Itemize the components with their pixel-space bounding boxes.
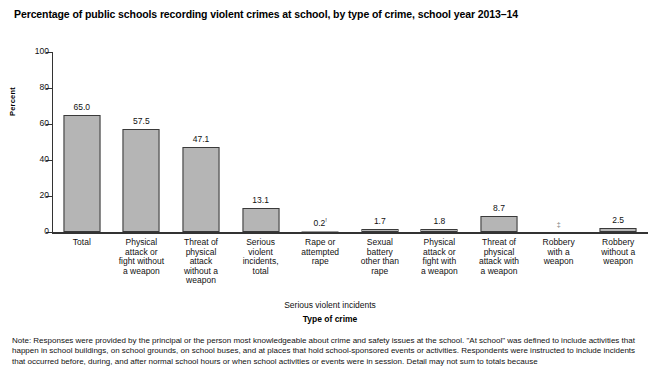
x-axis-category-label: Threat ofphysicalattack witha weapon xyxy=(469,238,529,276)
bar[interactable] xyxy=(182,147,219,232)
bar[interactable] xyxy=(480,216,517,232)
x-axis-category-label: Physicalattack orfight withouta weapon xyxy=(112,238,172,276)
category-label-line: rape xyxy=(350,267,410,277)
bar-slot: 2.5 xyxy=(588,52,648,232)
x-axis-category-label: Threat ofphysicalattackwithout aweapon xyxy=(171,238,231,286)
y-axis-label: Percent xyxy=(8,87,17,116)
bar[interactable] xyxy=(302,231,339,232)
note-line-2: happen in school buildings, on school gr… xyxy=(12,346,652,356)
x-axis-category-label: Total xyxy=(52,238,112,248)
category-label-line: weapon xyxy=(588,257,648,267)
bar-value-label: 1.7 xyxy=(374,216,386,226)
x-axis-category-label: Seriousviolentincidents,total xyxy=(231,238,291,276)
y-axis-tick-label: 80 xyxy=(40,82,49,92)
chart-title: Percentage of public schools recording v… xyxy=(14,8,654,20)
bar-slot: 57.5 xyxy=(112,52,172,232)
bar-value-label: 65.0 xyxy=(74,102,91,112)
category-label-line: weapon xyxy=(529,257,589,267)
bar-value-label: 13.1 xyxy=(252,195,269,205)
bar[interactable] xyxy=(242,208,279,232)
y-axis-tick-label: 60 xyxy=(40,118,49,128)
x-axis-label: Type of crime xyxy=(0,314,660,324)
bar[interactable] xyxy=(421,229,458,232)
bar-value-label: 57.5 xyxy=(133,116,150,126)
bar-suppressed-symbol: ‡ xyxy=(557,221,561,228)
note-line-3: that occurred before, during, and after … xyxy=(12,357,652,367)
bar-value-label: 0.2! xyxy=(313,217,327,228)
plot-area: 020406080100 65.057.547.113.10.2!1.71.88… xyxy=(52,52,648,232)
x-axis-category-label: Robberywithout aweapon xyxy=(588,238,648,267)
bar[interactable] xyxy=(63,115,100,232)
y-axis-tick-label: 20 xyxy=(40,190,49,200)
note-line-1: Note: Responses were provided by the pri… xyxy=(12,336,652,346)
category-label-line: a weapon xyxy=(410,267,470,277)
chart-note: Note: Responses were provided by the pri… xyxy=(12,336,652,367)
bar-slot: 47.1 xyxy=(171,52,231,232)
x-axis-category-label: Rape orattemptedrape xyxy=(290,238,350,267)
bar-value-label: 8.7 xyxy=(493,203,505,213)
y-axis-tick-label: 100 xyxy=(35,46,49,56)
category-label-line: a weapon xyxy=(469,267,529,277)
bar-slot: ‡ xyxy=(529,52,589,232)
bar-slot: 1.7 xyxy=(350,52,410,232)
bar-slot: 8.7 xyxy=(469,52,529,232)
unstable-estimate-marker: ! xyxy=(325,217,327,223)
bar-slot: 0.2! xyxy=(290,52,350,232)
category-label-line: a weapon xyxy=(112,267,172,277)
bar-slot: 1.8 xyxy=(410,52,470,232)
category-label-line: Total xyxy=(52,238,112,248)
bar-slot: 65.0 xyxy=(52,52,112,232)
category-label-line: weapon xyxy=(171,276,231,286)
x-axis-category-label: Physicalattack orfight witha weapon xyxy=(410,238,470,276)
x-axis-category-label: Robberywith aweapon xyxy=(529,238,589,267)
bar[interactable] xyxy=(123,129,160,233)
bar[interactable] xyxy=(361,229,398,232)
bar-value-label: 1.8 xyxy=(433,216,445,226)
bar-value-label: 2.5 xyxy=(612,215,624,225)
chart-figure: Percentage of public schools recording v… xyxy=(0,0,660,368)
y-axis-tick-label: 0 xyxy=(44,226,49,236)
group-bracket-label: Serious violent incidents xyxy=(0,300,660,310)
x-axis-category-label: Sexualbatteryother thanrape xyxy=(350,238,410,276)
category-label-line: total xyxy=(231,267,291,277)
bar-value-label: 47.1 xyxy=(193,134,210,144)
category-label-line: rape xyxy=(290,257,350,267)
y-axis-tick-label: 40 xyxy=(40,154,49,164)
bar-slot: 13.1 xyxy=(231,52,291,232)
bar[interactable] xyxy=(600,228,637,233)
x-axis-line xyxy=(52,232,648,234)
